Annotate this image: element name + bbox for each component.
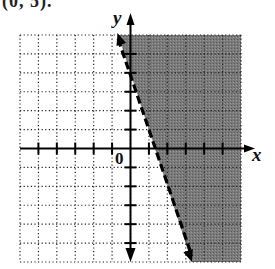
y-axis-arrow-down-icon: [126, 248, 136, 262]
x-axis-label: x: [251, 144, 262, 165]
origin-label: 0: [115, 149, 124, 168]
boundary-arrow-bottom-icon: [183, 249, 193, 262]
y-axis-label: y: [111, 7, 122, 28]
y-axis-arrow-up-icon: [127, 13, 135, 25]
inequality-graph: y x 0: [0, 0, 275, 269]
